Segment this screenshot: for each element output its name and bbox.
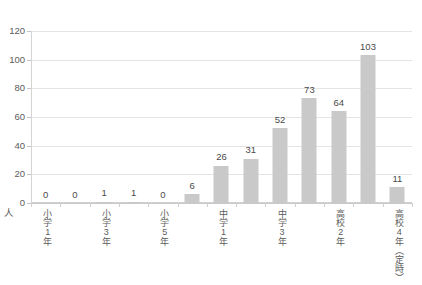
- bar-slot: 0: [60, 31, 89, 203]
- y-axis-tick-label: 80: [1, 84, 25, 94]
- bar-value-label: 1: [131, 188, 136, 198]
- y-axis-tick-label: 100: [1, 55, 25, 65]
- x-axis-category-label: 高校4年（定時）: [391, 209, 403, 282]
- bar-slot: 6: [178, 31, 207, 203]
- x-axis-category-label: 小学1年: [40, 209, 52, 246]
- bar-value-label: 31: [245, 145, 256, 155]
- bar-slot: 0: [31, 31, 60, 203]
- x-axis-tick: [207, 203, 208, 207]
- bar-value-label: 0: [43, 190, 48, 200]
- x-axis-tick: [148, 203, 149, 207]
- y-axis-tick-label: 20: [1, 170, 25, 180]
- bar-slot: 1: [90, 31, 119, 203]
- x-axis-tick-marks: [31, 203, 412, 208]
- x-axis-tick: [383, 203, 384, 207]
- x-axis-tick: [412, 203, 413, 207]
- bar[interactable]: [243, 159, 258, 203]
- x-axis-tick: [178, 203, 179, 207]
- bar-slot: 0: [148, 31, 177, 203]
- x-axis-tick: [90, 203, 91, 207]
- bar-value-label: 0: [160, 190, 165, 200]
- y-axis-tick-label: 40: [1, 141, 25, 151]
- x-axis-labels: 小学1年小学3年小学5年中学1年中学3年高校2年高校4年（定時）: [31, 209, 412, 285]
- bar-slot: 52: [265, 31, 294, 203]
- x-axis-tick: [236, 203, 237, 207]
- bar[interactable]: [390, 187, 405, 203]
- bar-value-label: 64: [333, 98, 344, 108]
- x-axis-tick: [353, 203, 354, 207]
- unit-label: 人: [4, 208, 14, 218]
- x-axis-category-label: 中学1年: [216, 209, 228, 246]
- y-axis-tick-label: 60: [1, 112, 25, 122]
- x-axis-category-label: 高校2年: [333, 209, 345, 246]
- x-axis-tick: [31, 203, 32, 207]
- bar[interactable]: [214, 166, 229, 203]
- bar[interactable]: [361, 55, 376, 203]
- x-axis-tick: [324, 203, 325, 207]
- x-axis-tick: [119, 203, 120, 207]
- x-axis-tick: [295, 203, 296, 207]
- bar-slot: 26: [207, 31, 236, 203]
- x-axis-tick: [60, 203, 61, 207]
- bars-layer: 001106263152736410311: [31, 31, 412, 203]
- bar[interactable]: [273, 128, 288, 203]
- bar-slot: 11: [383, 31, 412, 203]
- bar[interactable]: [185, 194, 200, 203]
- y-axis-tick-label: 120: [1, 26, 25, 36]
- bar[interactable]: [302, 98, 317, 203]
- bar-slot: 31: [236, 31, 265, 203]
- bar-value-label: 1: [102, 188, 107, 198]
- bar-value-label: 26: [216, 152, 227, 162]
- bar-chart: 120 100 80 60 40 20 0 人 0011062631527364…: [0, 0, 422, 285]
- x-axis-category-label: 小学3年: [98, 209, 110, 246]
- bar-value-label: 0: [72, 190, 77, 200]
- bar-slot: 73: [295, 31, 324, 203]
- bar-value-label: 11: [392, 174, 402, 184]
- bar-value-label: 52: [275, 115, 286, 125]
- bar[interactable]: [331, 111, 346, 203]
- x-axis-category-label: 小学5年: [157, 209, 169, 246]
- bar-value-label: 73: [304, 85, 315, 95]
- bar-value-label: 103: [360, 42, 376, 52]
- y-axis-labels: 120 100 80 60 40 20 0: [0, 31, 25, 203]
- x-axis-tick: [265, 203, 266, 207]
- bar-slot: 103: [353, 31, 382, 203]
- x-axis-category-label: 中学3年: [274, 209, 286, 246]
- bar-slot: 1: [119, 31, 148, 203]
- bar-value-label: 6: [190, 181, 195, 191]
- bar-slot: 64: [324, 31, 353, 203]
